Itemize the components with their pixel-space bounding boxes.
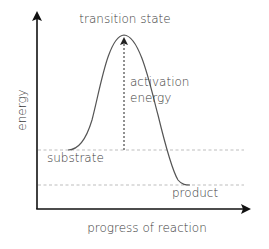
transition-state-label: transition state <box>79 12 170 26</box>
activation-energy-label-line1: activation <box>130 75 189 89</box>
substrate-label: substrate <box>47 151 104 165</box>
activation-energy-label-line2: energy <box>130 91 171 105</box>
energy-diagram: transition state activation energy subst… <box>0 0 269 249</box>
x-axis-label: progress of reaction <box>87 221 207 235</box>
product-label: product <box>172 186 218 200</box>
y-axis-label: energy <box>15 89 29 130</box>
